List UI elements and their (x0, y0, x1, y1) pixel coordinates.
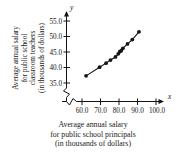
x-tick-label-1: 70.0 (94, 107, 107, 115)
data-point (104, 61, 108, 65)
y-tick-label-0: 35.0 (49, 80, 62, 88)
x-axis-break-icon (67, 99, 77, 106)
x-axis-caption-line-1: Average annual salary (0, 120, 186, 130)
y-axis-arrow-icon (64, 11, 69, 17)
x-axis-caption-line-3: (in thousands of dollars) (0, 139, 186, 149)
data-point (98, 65, 102, 69)
x-axis-caption-line-2: for public school principals (0, 130, 186, 140)
y-tick-labels: 35.0 40.0 45.0 50.0 55.0 (49, 18, 62, 88)
x-axis-symbol: x (167, 92, 172, 101)
x-tick-labels: 60.0 70.0 80.0 90.0 100.0 (76, 107, 166, 115)
data-point (130, 38, 134, 42)
x-axis-arrow-icon (159, 99, 165, 104)
x-tick-label-0: 60.0 (76, 107, 89, 115)
y-tick-label-1: 40.0 (49, 64, 62, 72)
data-point (109, 58, 113, 62)
data-point (114, 55, 118, 59)
x-tick-label-2: 80.0 (113, 107, 126, 115)
data-series (84, 30, 141, 78)
scatter-plot-figure: Average annual salary for public school … (0, 0, 186, 155)
x-tick-label-3: 90.0 (131, 107, 144, 115)
data-point (126, 42, 130, 46)
y-axis-symbol: y (69, 3, 74, 12)
y-axis-break-icon (64, 88, 70, 98)
x-tick-label-4: 100.0 (149, 107, 166, 115)
data-point (121, 46, 125, 50)
data-point (84, 74, 88, 78)
data-point (137, 30, 141, 34)
y-tick-label-3: 50.0 (49, 33, 62, 41)
x-axis-caption: Average annual salary for public school … (0, 120, 186, 149)
y-tick-label-2: 45.0 (49, 49, 62, 57)
y-tick-label-4: 55.0 (49, 18, 62, 26)
